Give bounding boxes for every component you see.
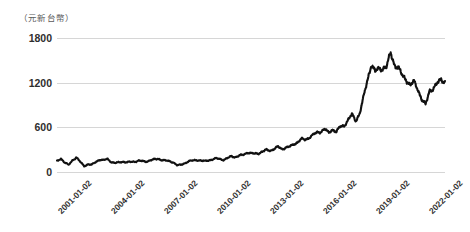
y-tick-label-600: 600 [4,121,52,133]
x-tick-label-2010: 2010-01-02 [215,178,253,216]
price-line-series [57,38,445,172]
x-tick-label-2016: 2016-01-02 [321,178,359,216]
plot-area [57,38,445,172]
x-tick-label-2001: 2001-01-02 [56,178,94,216]
x-tick-label-2019: 2019-01-02 [374,178,412,216]
y-tick-label-0: 0 [4,166,52,178]
y-axis-unit-caption: （元新台幣） [19,11,74,23]
y-tick-label-1200: 1200 [4,77,52,89]
x-tick-label-2022: 2022-01-02 [427,178,465,216]
y-axis: 1800 1200 600 0 [0,38,52,172]
chart-container: （元新台幣） 1800 1200 600 0 2001-01-02 2004-0… [0,0,470,232]
x-tick-label-2013: 2013-01-02 [268,178,306,216]
x-axis: 2001-01-02 2004-01-02 2007-01-02 2010-01… [57,172,445,232]
x-tick-label-2004: 2004-01-02 [109,178,147,216]
x-tick-label-2007: 2007-01-02 [162,178,200,216]
y-tick-label-1800: 1800 [4,32,52,44]
